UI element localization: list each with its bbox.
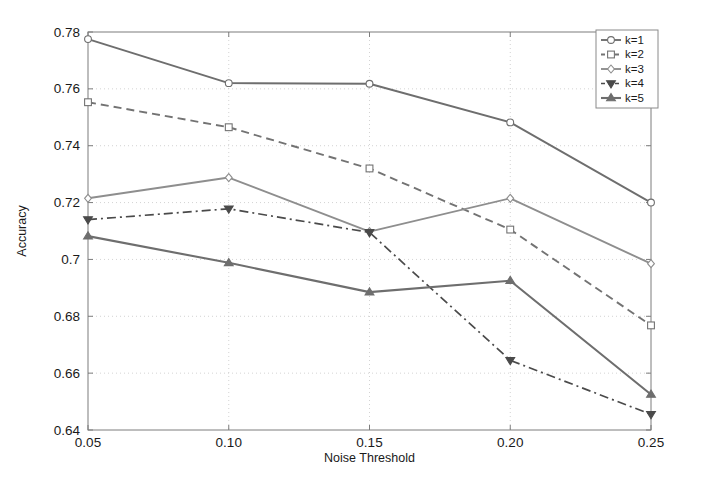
legend-label: k=5 bbox=[625, 92, 644, 104]
data-point-marker-square bbox=[85, 99, 92, 106]
data-point-marker-circle bbox=[608, 37, 615, 44]
x-axis-title: Noise Threshold bbox=[324, 451, 415, 465]
figure-container: 0.640.660.680.70.720.740.760.78 0.050.10… bbox=[0, 0, 706, 477]
data-point-marker-triangle-up bbox=[84, 232, 93, 239]
y-tick-label: 0.76 bbox=[54, 81, 80, 96]
y-tick-label: 0.72 bbox=[54, 195, 80, 210]
y-tick-label: 0.7 bbox=[61, 252, 80, 267]
data-point-marker-circle bbox=[225, 80, 232, 87]
data-point-marker-diamond bbox=[225, 174, 232, 182]
y-tick-label: 0.66 bbox=[54, 366, 80, 381]
x-tick-label: 0.15 bbox=[356, 435, 382, 450]
data-series-group bbox=[84, 36, 656, 419]
chart-legend: k=1k=2k=3k=4k=5 bbox=[596, 30, 658, 108]
data-point-marker-triangle-down bbox=[647, 412, 656, 419]
legend-label: k=2 bbox=[625, 48, 644, 60]
data-point-marker-square bbox=[608, 51, 615, 58]
series-line-k-5 bbox=[88, 236, 651, 394]
data-point-marker-diamond bbox=[507, 194, 514, 202]
y-tick-label: 0.74 bbox=[54, 138, 81, 153]
data-point-marker-square bbox=[648, 322, 655, 329]
legend-label: k=3 bbox=[625, 63, 644, 75]
x-tick-label: 0.05 bbox=[75, 435, 101, 450]
data-point-marker-square bbox=[366, 165, 373, 172]
data-point-marker-circle bbox=[85, 36, 92, 43]
data-point-marker-triangle-down bbox=[84, 217, 93, 224]
x-axis-tick-labels: 0.050.100.150.200.25 bbox=[75, 435, 664, 450]
accuracy-vs-noise-threshold-chart: 0.640.660.680.70.720.740.760.78 0.050.10… bbox=[0, 0, 706, 477]
x-tick-label: 0.25 bbox=[638, 435, 664, 450]
x-tick-label: 0.20 bbox=[497, 435, 523, 450]
legend-label: k=4 bbox=[625, 77, 644, 89]
data-point-marker-circle bbox=[648, 199, 655, 206]
data-point-marker-diamond bbox=[648, 260, 655, 268]
y-tick-label: 0.68 bbox=[54, 309, 80, 324]
y-tick-label: 0.78 bbox=[54, 25, 80, 40]
y-axis-tick-labels: 0.640.660.680.70.720.740.760.78 bbox=[54, 25, 81, 438]
series-line-k-4 bbox=[88, 209, 651, 415]
legend-label: k=1 bbox=[625, 34, 644, 46]
y-axis-title: Accuracy bbox=[15, 205, 29, 257]
data-point-marker-circle bbox=[507, 119, 514, 126]
data-point-marker-circle bbox=[366, 80, 373, 87]
x-tick-label: 0.10 bbox=[216, 435, 242, 450]
data-point-marker-diamond bbox=[85, 194, 92, 202]
data-point-marker-square bbox=[225, 124, 232, 131]
data-point-marker-square bbox=[507, 226, 514, 233]
